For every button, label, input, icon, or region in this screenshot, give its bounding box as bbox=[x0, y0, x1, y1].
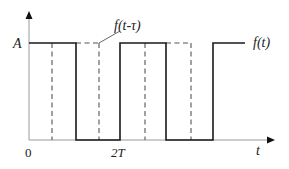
timing-diagram: A 0 2T t f(t) f(t-τ) bbox=[0, 0, 289, 169]
amplitude-label: A bbox=[12, 36, 22, 51]
x-axis-arrow-icon bbox=[267, 137, 275, 144]
delayed-signal bbox=[52, 43, 191, 140]
signal-label-f-t-tau: f(t-τ) bbox=[114, 18, 141, 34]
x-axis-label: t bbox=[256, 143, 261, 158]
origin-label: 0 bbox=[25, 145, 32, 160]
signal-f-t bbox=[29, 43, 245, 140]
axes bbox=[26, 11, 276, 144]
signal-label-f-t: f(t) bbox=[253, 35, 270, 51]
y-axis-arrow-icon bbox=[26, 11, 33, 19]
x-tick-2t-label: 2T bbox=[111, 145, 126, 160]
